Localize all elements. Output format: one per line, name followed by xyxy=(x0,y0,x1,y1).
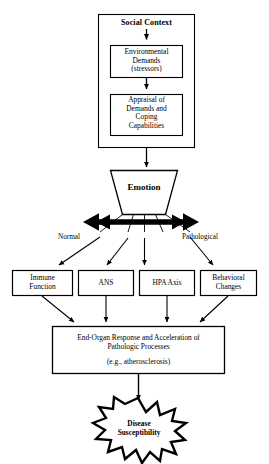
appraisal-node xyxy=(110,94,183,136)
stress-disease-flowchart: Social Context Environmental Demands (st… xyxy=(0,0,269,464)
environmental-demands-node xyxy=(110,45,183,78)
normal-pathological-arrow xyxy=(83,213,199,231)
arrows-mediators-to-end-organ xyxy=(42,296,228,322)
behavioral-changes-node xyxy=(200,270,257,296)
hpa-axis-node xyxy=(139,270,195,296)
social-context-node xyxy=(98,14,195,30)
immune-function-node xyxy=(12,270,73,296)
end-organ-response-node xyxy=(52,326,225,374)
ans-node xyxy=(78,270,134,296)
arrows-emotion-to-mediators xyxy=(59,237,213,265)
emotion-node xyxy=(110,170,178,215)
disease-susceptibility-node xyxy=(93,397,187,464)
